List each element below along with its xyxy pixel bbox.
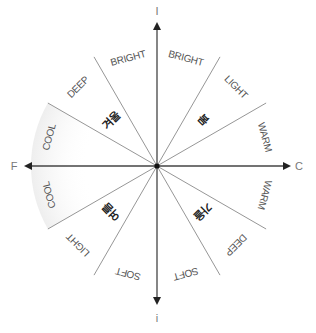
ring-label-bright-left: BRIGHT bbox=[109, 48, 147, 68]
season-label-spring: 봄 bbox=[194, 112, 211, 129]
ring-label-soft-left: SOFT bbox=[114, 265, 142, 282]
ring-label-light-left: LIGHT bbox=[64, 231, 92, 259]
ring-label-bright-right: BRIGHT bbox=[167, 48, 205, 68]
ring-label-deep-right: DEEP bbox=[223, 232, 250, 259]
sector-spoke bbox=[157, 166, 220, 275]
axis-label-bottom: i bbox=[156, 312, 158, 324]
season-color-wheel-diagram: I i F C BRIGHT LIGHT WARM WARM DEEP SOFT… bbox=[0, 0, 316, 333]
sector-spoke bbox=[157, 103, 266, 166]
center-dot bbox=[154, 163, 159, 168]
sector-spoke bbox=[157, 166, 266, 229]
axis-label-right: C bbox=[295, 160, 303, 172]
sector-spoke bbox=[157, 57, 220, 166]
ring-label-warm-lower: WARM bbox=[256, 179, 274, 211]
season-label-autumn: 가을 bbox=[191, 200, 215, 224]
ring-label-light-right: LIGHT bbox=[222, 73, 250, 101]
ring-label-soft-right: SOFT bbox=[172, 265, 200, 282]
ring-label-warm-upper: WARM bbox=[256, 121, 274, 153]
axis-label-top: I bbox=[155, 5, 158, 17]
season-label-summer: 여름 bbox=[99, 200, 123, 224]
ring-label-deep-left: DEEP bbox=[65, 73, 92, 100]
axis-label-left: F bbox=[11, 160, 18, 172]
season-label-winter: 겨울 bbox=[99, 108, 123, 132]
